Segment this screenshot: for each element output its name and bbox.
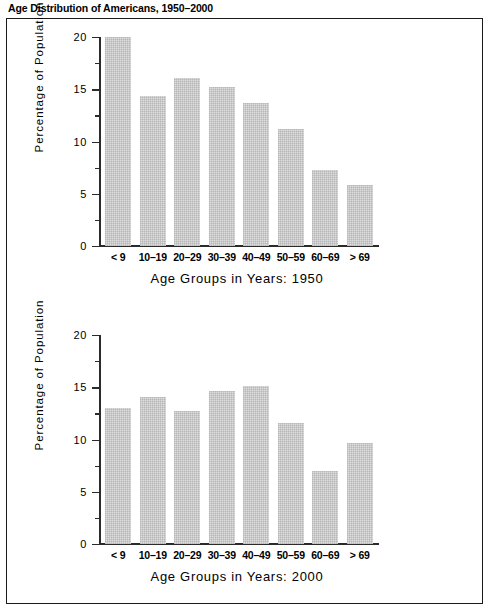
- y-tick-major: [92, 89, 99, 90]
- y-tick-label: 10: [59, 136, 87, 148]
- bar: [278, 423, 304, 544]
- y-tick-label: 20: [59, 31, 87, 43]
- x-axis-title: Age Groups in Years: 1950: [67, 271, 407, 286]
- y-tick-minor: [95, 115, 99, 116]
- y-tick-major: [92, 387, 99, 388]
- y-tick-label: 0: [59, 240, 87, 252]
- x-tick-label: > 69: [340, 251, 380, 263]
- y-axis-title: Percentage of Population: [33, 275, 45, 475]
- y-tick-minor: [95, 63, 99, 64]
- y-tick-minor: [95, 413, 99, 414]
- y-tick-major: [92, 142, 99, 143]
- bar: [209, 87, 235, 246]
- y-tick-major: [92, 194, 99, 195]
- x-tick-label: > 69: [340, 549, 380, 561]
- chart-1950: Percentage of Population 05101520 < 910–…: [7, 21, 484, 311]
- bar: [174, 411, 200, 544]
- y-tick-label: 20: [59, 329, 87, 341]
- bar-series: [101, 335, 377, 544]
- y-tick-major: [92, 37, 99, 38]
- chart-2000: Percentage of Population 05101520 < 910–…: [7, 319, 484, 603]
- figure-page: Age Distribution of Americans, 1950–2000…: [0, 0, 491, 613]
- y-tick-label: 5: [59, 486, 87, 498]
- x-axis-tick-labels: < 910–1920–2930–3940–4950–5960–69> 69: [101, 549, 377, 565]
- bar: [312, 170, 338, 246]
- y-tick-major: [92, 440, 99, 441]
- y-tick-major: [92, 246, 99, 247]
- bar: [347, 185, 373, 246]
- y-tick-minor: [95, 220, 99, 221]
- bar: [209, 391, 235, 544]
- y-tick-label: 5: [59, 188, 87, 200]
- bar: [347, 443, 373, 544]
- y-tick-major: [92, 335, 99, 336]
- bar: [174, 78, 200, 246]
- y-tick-label: 15: [59, 381, 87, 393]
- bar: [312, 471, 338, 544]
- y-tick-major: [92, 544, 99, 545]
- bar: [140, 96, 166, 246]
- x-axis-title: Age Groups in Years: 2000: [67, 569, 407, 584]
- bar: [243, 386, 269, 544]
- y-axis-title: Percentage of Population: [33, 0, 45, 177]
- bar: [140, 397, 166, 544]
- y-tick-minor: [95, 466, 99, 467]
- bar: [105, 408, 131, 544]
- bar: [278, 129, 304, 246]
- x-axis-tick-labels: < 910–1920–2930–3940–4950–5960–69> 69: [101, 251, 377, 267]
- y-tick-minor: [95, 518, 99, 519]
- figure-frame: Percentage of Population 05101520 < 910–…: [6, 18, 483, 604]
- y-tick-label: 15: [59, 83, 87, 95]
- y-tick-label: 0: [59, 538, 87, 550]
- bar-series: [101, 37, 377, 246]
- bar: [105, 37, 131, 246]
- y-tick-label: 10: [59, 434, 87, 446]
- y-tick-minor: [95, 361, 99, 362]
- bar: [243, 103, 269, 246]
- y-tick-minor: [95, 168, 99, 169]
- y-tick-major: [92, 492, 99, 493]
